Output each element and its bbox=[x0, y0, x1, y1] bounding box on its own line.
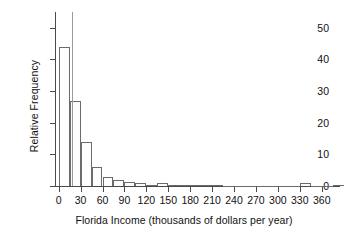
y-axis-line bbox=[55, 12, 56, 187]
histogram-bar bbox=[103, 177, 114, 186]
y-axis-label: Relative Frequency bbox=[28, 26, 40, 186]
histogram-figure: Relative Frequency 01020304050 030609012… bbox=[0, 0, 349, 238]
x-axis-tick bbox=[322, 187, 323, 192]
y-axis-tick bbox=[50, 123, 55, 124]
plot-area: 01020304050 0306090120150180210240270300… bbox=[55, 12, 340, 187]
x-axis-tick bbox=[212, 187, 213, 192]
x-axis-tick bbox=[234, 187, 235, 192]
x-axis-tick bbox=[278, 187, 279, 192]
y-axis-tick-label: 10 bbox=[303, 149, 329, 159]
histogram-bar bbox=[168, 185, 179, 186]
histogram-bar bbox=[256, 186, 267, 187]
histogram-bar bbox=[179, 185, 190, 186]
x-axis-tick bbox=[146, 187, 147, 192]
stray-vertical-rule-icon bbox=[72, 12, 73, 186]
y-axis-tick-label: 50 bbox=[303, 23, 329, 33]
x-axis-tick bbox=[168, 187, 169, 192]
histogram-bar bbox=[333, 185, 344, 186]
y-axis-tick-label: 40 bbox=[303, 54, 329, 64]
histogram-bar bbox=[157, 183, 168, 186]
y-axis-tick bbox=[50, 59, 55, 60]
histogram-bar bbox=[81, 142, 92, 186]
histogram-bar bbox=[190, 185, 201, 186]
histogram-bar bbox=[92, 167, 103, 186]
histogram-bar bbox=[212, 185, 223, 186]
histogram-bar bbox=[234, 186, 245, 187]
y-axis-tick bbox=[50, 154, 55, 155]
histogram-bar bbox=[59, 47, 70, 186]
y-axis-tick bbox=[50, 186, 55, 187]
histogram-bar bbox=[267, 186, 278, 187]
y-axis-tick-label: 20 bbox=[303, 118, 329, 128]
x-axis-tick bbox=[103, 187, 104, 192]
histogram-bar bbox=[245, 186, 256, 187]
histogram-bar bbox=[223, 186, 234, 187]
x-axis-tick bbox=[81, 187, 82, 192]
histogram-bar bbox=[311, 186, 322, 187]
histogram-bar bbox=[300, 183, 311, 186]
x-axis-tick-label: 360 bbox=[307, 195, 337, 206]
histogram-bar bbox=[113, 180, 124, 186]
histogram-bar bbox=[124, 182, 135, 186]
histogram-bar bbox=[201, 185, 212, 186]
x-axis-tick bbox=[124, 187, 125, 192]
x-axis-tick bbox=[190, 187, 191, 192]
y-axis-tick bbox=[50, 91, 55, 92]
histogram-bar bbox=[146, 185, 157, 186]
histogram-bar bbox=[322, 186, 333, 187]
x-axis-tick bbox=[300, 187, 301, 192]
x-axis-label: Florida Income (thousands of dollars per… bbox=[28, 214, 340, 226]
y-axis-tick bbox=[50, 28, 55, 29]
histogram-bar bbox=[289, 186, 300, 187]
histogram-bar bbox=[135, 183, 146, 186]
histogram-bar bbox=[278, 186, 289, 187]
x-axis-tick bbox=[256, 187, 257, 192]
y-axis-tick-label: 30 bbox=[303, 86, 329, 96]
x-axis-tick bbox=[59, 187, 60, 192]
